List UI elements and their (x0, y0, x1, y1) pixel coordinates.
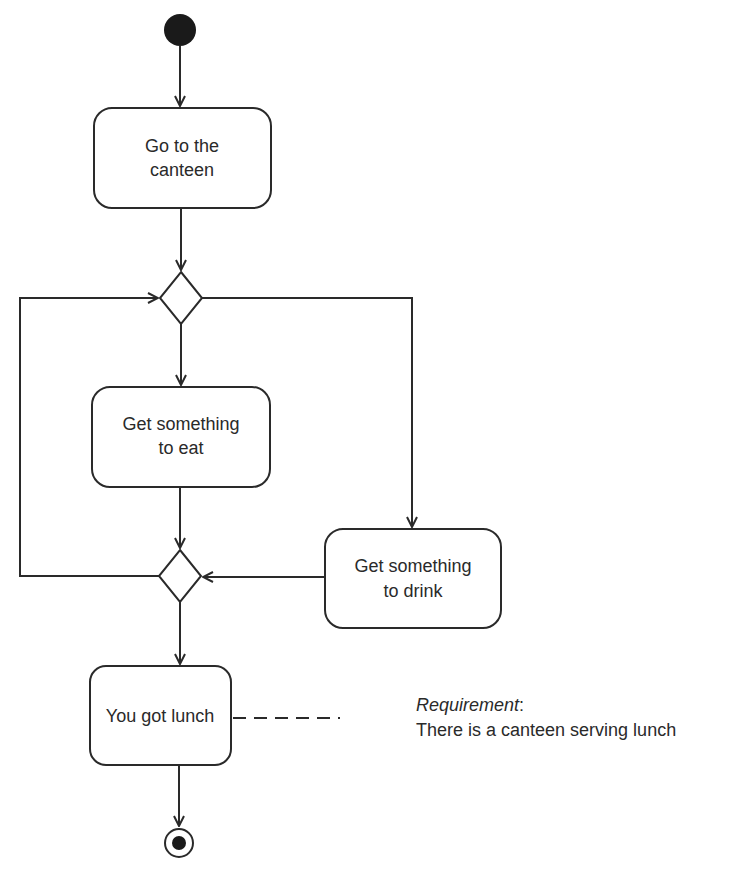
activity-go-to-canteen: Go to the canteen (94, 108, 271, 208)
requirement-note: Requirement: There is a canteen serving … (416, 695, 676, 740)
activity-you-got-lunch: You got lunch (90, 666, 231, 765)
activity-label: canteen (150, 160, 214, 180)
activity-get-something-to-eat: Get something to eat (92, 387, 270, 487)
activity-label: to eat (158, 438, 203, 458)
activity-get-something-to-drink: Get something to drink (325, 529, 501, 628)
note-title: Requirement: (416, 695, 524, 715)
activity-label: You got lunch (106, 706, 214, 726)
activity-diagram: Go to the canteen Get something to eat G… (0, 0, 730, 878)
activity-label: Go to the (145, 136, 219, 156)
initial-node (164, 14, 196, 46)
merge-diamond-bottom (159, 550, 201, 602)
activity-label: Get something (354, 556, 471, 576)
note-text: There is a canteen serving lunch (416, 720, 676, 740)
decision-diamond-top (160, 272, 202, 324)
activity-label: to drink (383, 581, 443, 601)
final-node (165, 829, 193, 857)
activity-label: Get something (122, 414, 239, 434)
